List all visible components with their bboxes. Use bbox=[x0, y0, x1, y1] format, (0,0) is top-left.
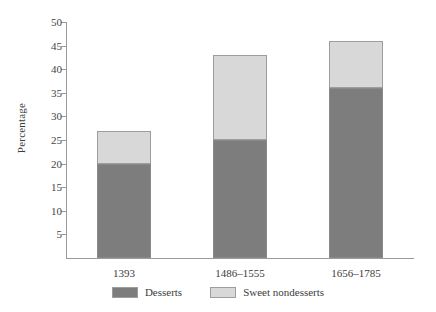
y-tick-label: 20 bbox=[51, 156, 62, 172]
y-tick-label: 40 bbox=[51, 61, 62, 77]
bar-segment-sweet-nondesserts bbox=[329, 41, 383, 88]
x-axis-label: 1393 bbox=[66, 266, 182, 280]
y-axis-line bbox=[66, 22, 67, 258]
y-tick-label: 10 bbox=[51, 203, 62, 219]
bar-segment-desserts bbox=[97, 164, 151, 258]
legend-label: Desserts bbox=[145, 286, 182, 299]
legend-item: Desserts bbox=[112, 286, 182, 299]
bar-segment-desserts bbox=[329, 88, 383, 258]
x-axis-line bbox=[66, 258, 414, 259]
y-tick-label: 45 bbox=[51, 38, 62, 54]
legend-swatch bbox=[112, 287, 138, 298]
y-tick-label: 35 bbox=[51, 85, 62, 101]
legend-item: Sweet nondesserts bbox=[210, 286, 324, 299]
y-tick-label: 30 bbox=[51, 108, 62, 124]
bar-segment-sweet-nondesserts bbox=[213, 55, 267, 140]
y-tick-label: 15 bbox=[51, 179, 62, 195]
bar-segment-sweet-nondesserts bbox=[97, 131, 151, 164]
x-axis-label: 1656–1785 bbox=[298, 266, 414, 280]
bar-1486–1555 bbox=[213, 55, 267, 258]
x-axis-label: 1486–1555 bbox=[182, 266, 298, 280]
bar-segment-desserts bbox=[213, 140, 267, 258]
y-tick-label: 50 bbox=[51, 14, 62, 30]
legend-swatch bbox=[210, 287, 236, 298]
chart-legend: DessertsSweet nondesserts bbox=[0, 286, 436, 299]
bar-1656–1785 bbox=[329, 41, 383, 258]
plot-area: 5101520253035404550 13931486–15551656–17… bbox=[66, 22, 414, 258]
bar-1393 bbox=[97, 131, 151, 258]
y-tick-label: 5 bbox=[57, 226, 63, 242]
y-axis-title: Percentage bbox=[10, 0, 32, 258]
y-tick-label: 25 bbox=[51, 132, 62, 148]
legend-label: Sweet nondesserts bbox=[243, 286, 324, 299]
stacked-bar-chart: Percentage 5101520253035404550 13931486–… bbox=[0, 0, 436, 312]
